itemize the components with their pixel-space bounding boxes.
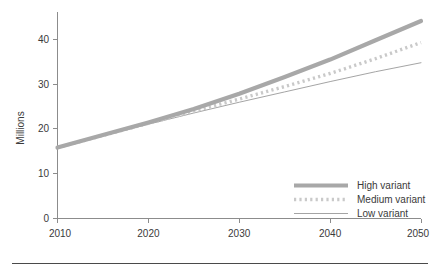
y-tick-label: 40: [38, 34, 50, 45]
y-tick-label: 30: [38, 79, 50, 90]
y-tick-label: 0: [43, 213, 49, 224]
series-line-low: [58, 63, 422, 148]
x-tick-label: 2040: [319, 228, 342, 239]
y-tick-marks: [53, 39, 58, 218]
y-tick-label: 20: [38, 123, 50, 134]
series-line-high: [58, 21, 422, 148]
x-tick-label: 2030: [228, 228, 251, 239]
y-tick-labels: 0 10 20 30 40: [38, 34, 50, 224]
x-tick-labels: 2010 2020 2030 2040 2050: [49, 228, 430, 239]
legend-item-medium-variant[interactable]: Medium variant: [294, 194, 426, 205]
y-axis-title: Millions: [15, 111, 26, 144]
legend-item-low-variant[interactable]: Low variant: [294, 208, 408, 219]
x-tick-label: 2050: [407, 228, 430, 239]
series-paths: [58, 21, 422, 148]
legend-label: High variant: [357, 180, 411, 191]
chart-figure: 0 10 20 30 40 2010 2020 2030 2040 2050 M…: [0, 0, 439, 272]
x-tick-label: 2020: [137, 228, 160, 239]
y-tick-label: 10: [38, 168, 50, 179]
x-tick-label: 2010: [49, 228, 72, 239]
chart-legend: High variant Medium variant Low variant: [294, 180, 426, 219]
line-chart: 0 10 20 30 40 2010 2020 2030 2040 2050 M…: [0, 0, 439, 272]
legend-label: Medium variant: [357, 194, 426, 205]
legend-item-high-variant[interactable]: High variant: [294, 180, 411, 191]
x-tick-marks: [58, 219, 422, 224]
legend-label: Low variant: [357, 208, 408, 219]
